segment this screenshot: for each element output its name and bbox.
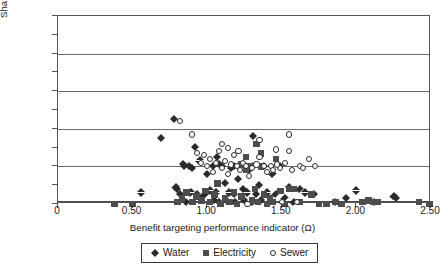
data-point-electricity — [255, 199, 262, 206]
data-point-sewer — [300, 165, 306, 171]
data-point-sewer — [306, 156, 312, 162]
data-point-sewer — [225, 145, 231, 151]
data-point-electricity — [374, 199, 381, 206]
data-point-electricity — [308, 191, 315, 198]
data-point-sewer — [273, 146, 279, 152]
legend-item-sewer: Sewer — [270, 247, 308, 259]
data-point-water — [352, 182, 360, 190]
legend-item-water: Water — [151, 247, 189, 259]
data-point-sewer — [274, 161, 280, 167]
x-tick-label: 1.00 — [184, 206, 228, 216]
data-point-water — [249, 128, 257, 136]
data-point-sewer — [256, 154, 262, 160]
gridline — [58, 129, 429, 130]
sewer-circle-icon — [270, 250, 276, 256]
data-point-water — [342, 190, 350, 198]
data-point-electricity — [189, 199, 196, 206]
data-point-sewer — [244, 201, 250, 207]
chart-legend: Water Electricity Sewer — [141, 243, 318, 263]
data-point-water — [392, 190, 400, 198]
x-tick-label: 0.50 — [110, 206, 154, 216]
data-point-sewer — [225, 171, 231, 177]
x-tick-label: 0 — [35, 206, 79, 216]
data-point-sewer — [286, 131, 292, 137]
legend-label-electricity: Electricity — [213, 247, 256, 259]
legend-item-electricity: Electricity — [203, 247, 256, 259]
data-point-electricity — [179, 195, 186, 202]
data-point-water — [243, 184, 251, 192]
water-diamond-icon — [151, 245, 159, 253]
data-point-electricity — [198, 197, 205, 204]
data-point-sewer — [286, 148, 292, 154]
data-point-sewer — [246, 173, 252, 179]
data-point-electricity — [277, 188, 284, 195]
data-point-sewer — [256, 137, 262, 143]
data-point-electricity — [226, 199, 233, 206]
data-point-sewer — [289, 167, 295, 173]
data-point-water — [157, 130, 165, 138]
data-point-water — [191, 139, 199, 147]
data-point-electricity — [202, 188, 209, 195]
x-axis-title: Benefit targeting performance indicator … — [0, 222, 445, 233]
data-point-electricity — [211, 191, 218, 198]
gridline — [58, 91, 429, 92]
gridline — [58, 54, 429, 55]
plot-area — [57, 15, 430, 203]
data-point-electricity — [316, 201, 323, 208]
y-axis-title: Share of poor receiving subsidy (%) — [0, 0, 9, 18]
data-point-sewer — [189, 131, 195, 137]
legend-label-sewer: Sewer — [280, 247, 308, 259]
data-point-sewer — [177, 118, 183, 124]
legend-label-water: Water — [163, 247, 189, 259]
data-point-sewer — [213, 160, 219, 166]
data-point-electricity — [183, 189, 190, 196]
data-point-electricity — [214, 180, 221, 187]
data-point-electricity — [234, 201, 241, 208]
data-point-sewer — [282, 160, 288, 166]
data-point-water — [137, 184, 145, 192]
data-point-sewer — [253, 161, 259, 167]
x-tick-label: 2.50 — [408, 206, 445, 216]
x-tick-label: 2.00 — [333, 206, 377, 216]
data-point-sewer — [210, 169, 216, 175]
data-point-sewer — [235, 148, 241, 154]
data-point-electricity — [323, 201, 330, 208]
data-point-electricity — [238, 193, 245, 200]
x-tick-label: 1.50 — [259, 206, 303, 216]
data-point-sewer — [312, 163, 318, 169]
data-point-electricity — [252, 186, 259, 193]
data-point-electricity — [290, 186, 297, 193]
data-point-electricity — [231, 189, 238, 196]
scatter-chart: Share of poor receiving subsidy (%) 0102… — [0, 0, 445, 272]
electricity-square-icon — [203, 250, 209, 256]
data-point-sewer — [294, 199, 300, 205]
